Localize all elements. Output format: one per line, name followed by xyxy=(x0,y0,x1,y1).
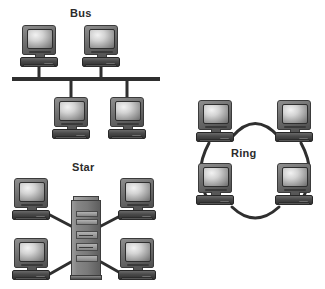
bus-drop-bottom-left xyxy=(70,79,73,98)
monitor-vent xyxy=(205,126,227,128)
ring-arc-top xyxy=(232,124,279,138)
computer-base-lip xyxy=(111,136,143,139)
bus-backbone xyxy=(12,77,160,81)
monitor-vent xyxy=(127,264,149,266)
computer-base-lip xyxy=(23,64,55,67)
monitor-casing xyxy=(277,100,311,130)
bus-label: Bus xyxy=(70,7,92,19)
computer-base-lip xyxy=(15,277,47,280)
monitor-screen xyxy=(19,182,45,202)
monitor-casing xyxy=(22,25,56,55)
monitor-screen xyxy=(59,101,85,121)
computer-base-lip xyxy=(199,139,231,142)
bus-drop-top-right xyxy=(100,66,103,79)
computer-base-lip xyxy=(85,64,117,67)
star-spoke-top-left xyxy=(48,214,71,226)
monitor-screen xyxy=(203,104,229,124)
monitor-vent xyxy=(205,189,227,191)
ring-computer-bottom-right[interactable] xyxy=(275,163,313,205)
monitor-casing xyxy=(110,97,144,127)
monitor-screen xyxy=(125,182,151,202)
computer-base-lip xyxy=(55,136,87,139)
computer-base-lip xyxy=(199,202,231,205)
monitor-casing xyxy=(84,25,118,55)
monitor-casing xyxy=(14,238,48,268)
star-computer-bottom-right[interactable] xyxy=(118,238,156,280)
ring-computer-top-right[interactable] xyxy=(275,100,313,142)
bus-drop-bottom-right xyxy=(126,79,129,98)
bus-links xyxy=(12,66,160,98)
bus-computer-top-right[interactable] xyxy=(82,25,120,67)
monitor-casing xyxy=(277,163,311,193)
computer-base-lip xyxy=(278,139,310,142)
monitor-screen xyxy=(115,101,141,121)
monitor-casing xyxy=(120,238,154,268)
server-drive-bay xyxy=(76,211,98,217)
computer-base-lip xyxy=(278,202,310,205)
monitor-vent xyxy=(91,51,113,53)
monitor-screen xyxy=(282,167,308,187)
monitor-casing xyxy=(198,100,232,130)
computer-base-lip xyxy=(121,277,153,280)
bus-computer-bottom-right[interactable] xyxy=(108,97,146,139)
monitor-screen xyxy=(125,242,151,262)
monitor-vent xyxy=(284,189,306,191)
server-base-foot xyxy=(70,275,102,280)
monitor-vent xyxy=(284,126,306,128)
ring-computer-bottom-left[interactable] xyxy=(196,163,234,205)
monitor-screen xyxy=(282,104,308,124)
server-chassis xyxy=(71,200,101,278)
monitor-screen xyxy=(89,29,115,49)
monitor-vent xyxy=(21,264,43,266)
topology-diagram: Bus Ring xyxy=(0,0,325,289)
star-spoke-bottom-left xyxy=(48,262,71,275)
monitor-screen xyxy=(19,242,45,262)
computer-base-lip xyxy=(15,217,47,220)
ring-label: Ring xyxy=(231,147,257,159)
monitor-casing xyxy=(120,178,154,208)
star-label: Star xyxy=(72,161,95,173)
monitor-vent xyxy=(21,204,43,206)
computer-base-lip xyxy=(121,217,153,220)
star-server-tower[interactable] xyxy=(71,196,101,280)
monitor-casing xyxy=(54,97,88,127)
ring-computer-top-left[interactable] xyxy=(196,100,234,142)
monitor-vent xyxy=(117,123,139,125)
server-drive-bay xyxy=(76,255,98,262)
monitor-vent xyxy=(127,204,149,206)
server-slot xyxy=(79,247,93,248)
server-drive-bay xyxy=(76,219,98,225)
bus-computer-top-left[interactable] xyxy=(20,25,58,67)
star-computer-top-left[interactable] xyxy=(12,178,50,220)
monitor-screen xyxy=(203,167,229,187)
bus-drop-top-left xyxy=(38,66,41,79)
monitor-casing xyxy=(14,178,48,208)
monitor-casing xyxy=(198,163,232,193)
monitor-vent xyxy=(29,51,51,53)
star-computer-top-right[interactable] xyxy=(118,178,156,220)
star-computer-bottom-left[interactable] xyxy=(12,238,50,280)
server-slot xyxy=(79,235,93,236)
bus-computer-bottom-left[interactable] xyxy=(52,97,90,139)
ring-arc-bottom xyxy=(232,207,279,218)
monitor-screen xyxy=(27,29,53,49)
monitor-vent xyxy=(61,123,83,125)
